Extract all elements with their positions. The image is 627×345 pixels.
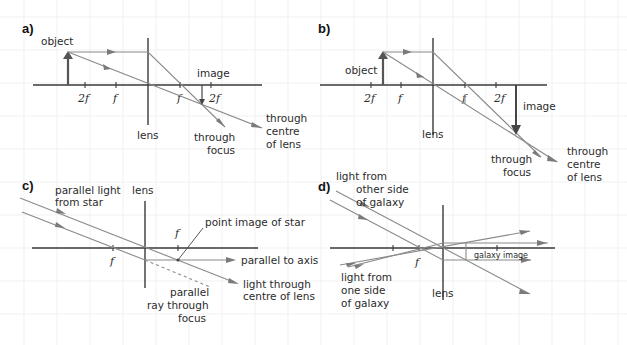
centre-ray-label-1: through <box>567 145 608 157</box>
centre-ray-label-3: of lens <box>266 138 301 150</box>
centre-ray-label-2: centre <box>567 158 601 170</box>
panel-c: c) f f parallel light from star lens poi… <box>20 178 318 324</box>
focus-ray-label-2: focus <box>503 166 531 178</box>
tick-label-f-left: f <box>109 255 116 268</box>
dashed-parallel-ray <box>145 260 210 287</box>
parallel-axis-label: parallel to axis <box>241 254 318 266</box>
object-label: object <box>345 64 377 76</box>
panel-b: b) 2f f f 2f object image lens through f… <box>318 21 608 183</box>
ray-arrow-icon <box>519 289 530 294</box>
object-label: object <box>41 35 73 47</box>
centre-label-1: light through <box>243 278 311 290</box>
centre-ray-label-3: of lens <box>567 171 602 183</box>
dashed-label-3: focus <box>178 312 206 324</box>
ray-arrow-icon <box>251 122 262 128</box>
panel-c-label: c) <box>22 178 34 193</box>
ray-through-centre <box>68 52 262 128</box>
panel-b-label: b) <box>318 21 330 36</box>
panel-a-label: a) <box>22 21 34 36</box>
ray-through-centre <box>20 198 236 283</box>
tick-label-f-right: f <box>176 92 183 105</box>
lens-label: lens <box>132 184 154 196</box>
point-image-label: point image of star <box>205 216 306 228</box>
top-label-1: light from <box>336 170 387 182</box>
lens-label: lens <box>422 128 444 140</box>
bottom-label-1: light from <box>341 271 392 283</box>
ray-arrow-icon <box>55 222 65 228</box>
tick-label-f-right: f <box>174 227 181 240</box>
image-label: image <box>197 67 230 79</box>
tick-label-2f-right: 2f <box>208 92 222 105</box>
ray-arrow-icon <box>226 257 236 263</box>
galaxy-image-label: galaxy image <box>474 251 528 260</box>
tick-label-f-left: f <box>397 92 404 105</box>
ray-through-focus <box>22 212 226 260</box>
centre-label-2: centre of lens <box>243 290 315 302</box>
ray-arrow-icon <box>103 64 111 70</box>
ray-arrow-icon <box>56 208 66 214</box>
panel-a: a) 2f f f 2f object image lens through f… <box>22 21 307 156</box>
bottom-label-2: one side <box>341 284 385 296</box>
tick-label-2f-right: 2f <box>493 92 507 105</box>
panel-d-label: d) <box>318 179 330 194</box>
dashed-label-2: ray through <box>147 299 209 311</box>
dashed-label-1: parallel <box>170 286 209 298</box>
diagram-canvas: a) 2f f f 2f object image lens through f… <box>0 0 627 345</box>
focus-ray-label-2: focus <box>207 144 235 156</box>
tick-label-f-left: f <box>112 92 119 105</box>
lens-label: lens <box>137 129 159 141</box>
lens-diagram-figure: a) 2f f f 2f object image lens through f… <box>0 0 627 345</box>
tick-label-2f-left: 2f <box>77 92 91 105</box>
source-label-2: from star <box>55 196 104 208</box>
lens-label: lens <box>432 287 454 299</box>
image-label: image <box>523 100 556 112</box>
leader-line <box>178 228 203 260</box>
focus-ray-label-1: through <box>491 153 532 165</box>
bottom-label-3: of galaxy <box>341 297 389 309</box>
top-label-3: of galaxy <box>356 196 404 208</box>
focus-ray-label-1: through <box>194 131 235 143</box>
source-label-1: parallel light <box>55 184 121 196</box>
ray-arrow-icon <box>537 240 547 246</box>
centre-ray-label-2: centre <box>266 125 300 137</box>
centre-ray-label-1: through <box>266 112 307 124</box>
tick-label-2f-left: 2f <box>363 92 377 105</box>
top-label-2: other side <box>356 183 409 195</box>
